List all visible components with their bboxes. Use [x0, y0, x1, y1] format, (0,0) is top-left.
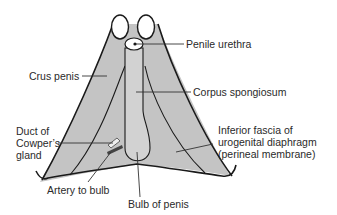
label-duct-cowper-line1: Duct of: [16, 125, 49, 137]
label-inferior-fascia-line1: Inferior fascia of: [218, 124, 293, 136]
label-duct-cowper-line2: Cowper’s: [16, 137, 60, 149]
label-penile-urethra: Penile urethra: [186, 38, 251, 50]
anatomy-diagram: [0, 0, 337, 215]
label-corpus-spongiosum: Corpus spongiosum: [193, 86, 286, 98]
label-artery-to-bulb: Artery to bulb: [47, 184, 109, 196]
label-duct-cowper-line3: gland: [16, 149, 42, 161]
label-crus-penis: Crus penis: [29, 70, 79, 82]
label-inferior-fascia-line3: (perineal membrane): [218, 148, 315, 160]
label-bulb-of-penis: Bulb of penis: [128, 198, 189, 210]
left-crus-oval: [112, 15, 129, 39]
label-inferior-fascia-line2: urogenital diaphragm: [218, 136, 317, 148]
right-crus-oval: [138, 15, 155, 39]
